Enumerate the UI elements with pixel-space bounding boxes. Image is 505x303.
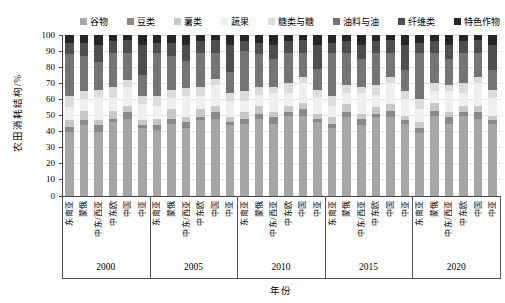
bar-segment-特色作物 <box>182 35 191 45</box>
bar-segment-糖类与糖 <box>328 96 337 106</box>
group-separator <box>62 196 63 278</box>
bar-segment-糖类与糖 <box>80 91 89 99</box>
bar-2020-东南亚 <box>415 35 424 196</box>
bar-segment-特色作物 <box>138 35 147 45</box>
legend-label: 薯类 <box>184 15 202 28</box>
bar-segment-蔬果 <box>357 93 366 114</box>
x-axis-line <box>62 196 500 197</box>
bar-2005-中亚 <box>226 35 235 196</box>
bar-segment-糖类与糖 <box>284 83 293 93</box>
bar-segment-蔬果 <box>226 101 235 117</box>
bar-segment-蔬果 <box>255 95 264 106</box>
bar-segment-纤维类 <box>196 41 205 52</box>
legend-label: 纤维类 <box>408 15 435 28</box>
year-label: 2020 <box>412 261 500 273</box>
bar-segment-蔬果 <box>123 87 132 106</box>
bar-segment-薯类 <box>255 106 264 114</box>
bar-2000-蒙俄 <box>80 35 89 196</box>
y-tick-label: 0 <box>31 192 55 201</box>
region-label: 中亚 <box>223 200 236 257</box>
bar-segment-薯类 <box>430 103 439 111</box>
bar-segment-纤维类 <box>430 41 439 52</box>
bar-segment-油料与油 <box>167 56 176 90</box>
bar-segment-纤维类 <box>386 40 395 53</box>
bar-segment-薯类 <box>167 109 176 119</box>
bar-segment-糖类与糖 <box>372 85 381 95</box>
bar-segment-糖类与糖 <box>109 87 118 98</box>
bar-2015-中东/西亚 <box>357 35 366 196</box>
bar-2020-中东欧 <box>459 35 468 196</box>
bar-segment-油料与油 <box>240 51 249 91</box>
bar-segment-糖类与糖 <box>153 96 162 106</box>
bar-segment-纤维类 <box>342 41 351 52</box>
bar-segment-纤维类 <box>211 40 220 53</box>
bar-2000-中东/西亚 <box>94 35 103 196</box>
bar-segment-特色作物 <box>488 35 497 45</box>
region-label: 东南亚 <box>150 200 163 257</box>
bar-2020-蒙俄 <box>430 35 439 196</box>
bar-2000-中东欧 <box>109 35 118 196</box>
bar-2005-蒙俄 <box>167 35 176 196</box>
bar-segment-特色作物 <box>80 35 89 43</box>
legend-swatch-icon <box>454 18 461 25</box>
legend-item: 薯类 <box>174 15 202 28</box>
region-label: 中东/西亚 <box>267 200 280 257</box>
legend-swatch-icon <box>333 18 340 25</box>
y-tick-label: 80 <box>31 63 55 72</box>
y-tick-label: 90 <box>31 47 55 56</box>
bar-segment-谷物 <box>240 124 249 196</box>
bar-segment-纤维类 <box>299 40 308 53</box>
bar-segment-纤维类 <box>372 41 381 52</box>
bar-2010-中东欧 <box>284 35 293 196</box>
region-label: 蒙俄 <box>428 200 441 257</box>
region-label: 中国 <box>384 200 397 257</box>
bar-segment-谷物 <box>474 119 483 196</box>
region-label: 中东欧 <box>107 200 120 257</box>
bar-segment-油料与油 <box>284 53 293 84</box>
bar-segment-糖类与糖 <box>313 90 322 98</box>
bar-segment-纤维类 <box>474 40 483 53</box>
bar-segment-油料与油 <box>459 53 468 84</box>
bar-segment-纤维类 <box>328 43 337 53</box>
bar-segment-糖类与糖 <box>65 96 74 107</box>
group-separator <box>150 196 151 278</box>
bar-segment-蔬果 <box>299 83 308 102</box>
bar-segment-纤维类 <box>167 43 176 56</box>
bar-2015-中东欧 <box>372 35 381 196</box>
bar-2005-东南亚 <box>153 35 162 196</box>
bar-segment-纤维类 <box>415 43 424 53</box>
legend-item: 糖类与糖 <box>268 15 314 28</box>
bar-segment-糖类与糖 <box>240 91 249 101</box>
bar-segment-特色作物 <box>445 35 454 45</box>
bar-segment-谷物 <box>196 120 205 196</box>
bar-segment-纤维类 <box>401 45 410 71</box>
bar-segment-纤维类 <box>269 45 278 59</box>
year-label: 2010 <box>237 261 325 273</box>
bar-segment-糖类与糖 <box>342 85 351 93</box>
bar-segment-油料与油 <box>269 59 278 86</box>
bar-2010-东南亚 <box>240 35 249 196</box>
bar-segment-油料与油 <box>313 69 322 90</box>
bar-2000-东南亚 <box>65 35 74 196</box>
bar-segment-谷物 <box>357 125 366 196</box>
bar-2015-中国 <box>386 35 395 196</box>
bar-segment-纤维类 <box>459 41 468 52</box>
group-separator <box>237 196 238 278</box>
bar-segment-纤维类 <box>182 45 191 61</box>
bar-segment-蔬果 <box>138 104 147 120</box>
bar-2005-中东/西亚 <box>182 35 191 196</box>
region-label: 蒙俄 <box>253 200 266 257</box>
legend-label: 油料与油 <box>343 15 379 28</box>
y-tick-label: 30 <box>31 143 55 152</box>
bar-segment-谷物 <box>94 132 103 196</box>
bar-segment-特色作物 <box>255 35 264 43</box>
bar-segment-糖类与糖 <box>167 90 176 98</box>
y-axis-title: 农田消耗结构/% <box>10 53 22 173</box>
year-label: 2005 <box>150 261 238 273</box>
bar-segment-糖类与糖 <box>226 93 235 101</box>
bar-segment-油料与油 <box>430 53 439 84</box>
region-label: 中东/西亚 <box>442 200 455 257</box>
bar-2015-东南亚 <box>328 35 337 196</box>
bar-segment-蔬果 <box>153 106 162 119</box>
bar-2020-中亚 <box>488 35 497 196</box>
